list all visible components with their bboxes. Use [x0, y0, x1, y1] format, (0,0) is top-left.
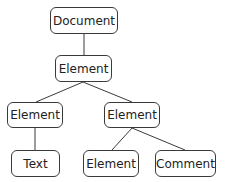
node-element-left: Element [7, 102, 63, 128]
node-element-root: Element [55, 55, 112, 82]
node-label: Element [86, 157, 136, 171]
node-label: Text [23, 157, 47, 171]
node-document: Document [50, 7, 118, 34]
node-label: Element [59, 62, 109, 76]
edge-element-root-element-left [36, 82, 83, 102]
edge-element-right-element-leaf [112, 128, 132, 150]
edge-element-right-comment [132, 128, 185, 150]
dom-tree-diagram: Document Element Element Element Text El… [0, 0, 227, 182]
node-label: Element [107, 108, 157, 122]
node-text: Text [11, 150, 60, 177]
node-label: Document [53, 14, 115, 28]
node-element-leaf: Element [83, 150, 139, 177]
node-label: Comment [156, 157, 215, 171]
node-label: Element [10, 108, 60, 122]
node-element-right: Element [104, 102, 160, 128]
edge-element-root-element-right [83, 82, 132, 102]
node-comment: Comment [155, 150, 216, 177]
